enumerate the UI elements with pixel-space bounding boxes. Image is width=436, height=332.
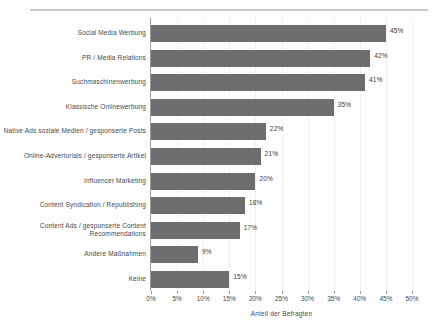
x-tick-mark: [386, 291, 387, 294]
bar-row[interactable]: 15%: [151, 267, 412, 292]
header-divider: [30, 9, 428, 11]
bar-row[interactable]: 41%: [151, 70, 412, 95]
x-tick-mark: [334, 291, 335, 294]
x-tick-label: 30%: [301, 295, 314, 302]
category-label: Content Ads / gesponserte Content Recomm…: [1, 222, 146, 239]
x-tick-label: 40%: [353, 295, 366, 302]
x-tick-label: 5%: [172, 295, 181, 302]
bar[interactable]: [151, 123, 266, 140]
x-tick-label: 0%: [146, 295, 155, 302]
category-label: Social Media Werbung: [1, 29, 146, 38]
category-label: Suchmaschinenwerbung: [1, 78, 146, 87]
x-tick-mark: [360, 291, 361, 294]
bar-chart: Social Media WerbungPR / Media Relations…: [0, 0, 436, 332]
bar[interactable]: [151, 246, 198, 263]
bar-row[interactable]: 35%: [151, 95, 412, 120]
bar[interactable]: [151, 222, 240, 239]
category-label: Influencer Marketing: [1, 177, 146, 186]
bar-value-label: 17%: [244, 224, 258, 231]
bar-value-label: 18%: [249, 199, 263, 206]
category-label: Content Syndication / Republishing: [1, 201, 146, 210]
category-axis-labels: Social Media WerbungPR / Media Relations…: [0, 18, 146, 290]
bar-row[interactable]: 17%: [151, 218, 412, 243]
x-tick-label: 35%: [327, 295, 340, 302]
x-tick-label: 25%: [275, 295, 288, 302]
bar-value-label: 20%: [259, 175, 273, 182]
bar-value-label: 42%: [374, 52, 388, 59]
x-tick-mark: [229, 291, 230, 294]
bar[interactable]: [151, 148, 261, 165]
x-tick-label: 45%: [379, 295, 392, 302]
category-label: Keine: [1, 275, 146, 284]
gridline: [412, 18, 413, 290]
bar-value-label: 41%: [369, 76, 383, 83]
bar-value-label: 35%: [338, 101, 352, 108]
bar[interactable]: [151, 50, 370, 67]
x-tick-mark: [308, 291, 309, 294]
x-tick-mark: [412, 291, 413, 294]
bar-row[interactable]: 18%: [151, 193, 412, 218]
bar-value-label: 9%: [202, 248, 212, 255]
bar[interactable]: [151, 173, 255, 190]
x-tick-label: 50%: [405, 295, 418, 302]
x-tick-label: 10%: [197, 295, 210, 302]
bar-row[interactable]: 45%: [151, 21, 412, 46]
category-label: Andere Maßnahmen: [1, 250, 146, 259]
bar-row[interactable]: 21%: [151, 144, 412, 169]
bar-value-label: 22%: [270, 125, 284, 132]
x-tick-mark: [203, 291, 204, 294]
bar-row[interactable]: 9%: [151, 242, 412, 267]
x-tick-mark: [177, 291, 178, 294]
bar[interactable]: [151, 74, 365, 91]
x-tick-label: 15%: [223, 295, 236, 302]
x-axis: 0%5%10%15%20%25%30%35%40%45%50%: [151, 291, 412, 305]
bar-value-label: 21%: [265, 150, 279, 157]
category-label: Online-Advertorials / gesponserte Artike…: [1, 152, 146, 161]
category-label: Native Ads soziale Medien / gesponserte …: [1, 127, 146, 136]
bar[interactable]: [151, 197, 245, 214]
plot-area: 45%42%41%35%22%21%20%18%17%9%15%: [151, 18, 412, 290]
bar[interactable]: [151, 99, 334, 116]
category-label: Klassische Onlinewerbung: [1, 103, 146, 112]
bar-value-label: 45%: [390, 27, 404, 34]
x-tick-mark: [255, 291, 256, 294]
bar-row[interactable]: 42%: [151, 46, 412, 71]
x-axis-title: Anteil der Befragten: [151, 310, 412, 317]
bar-row[interactable]: 22%: [151, 119, 412, 144]
bar[interactable]: [151, 271, 229, 288]
bar-value-label: 15%: [233, 273, 247, 280]
x-tick-label: 20%: [249, 295, 262, 302]
x-tick-mark: [282, 291, 283, 294]
bar-row[interactable]: 20%: [151, 169, 412, 194]
x-tick-mark: [151, 291, 152, 294]
bar[interactable]: [151, 25, 386, 42]
category-label: PR / Media Relations: [1, 54, 146, 63]
